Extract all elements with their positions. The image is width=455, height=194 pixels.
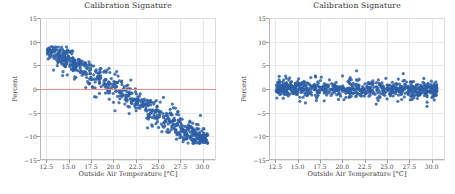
y-tick-label: 5 [262, 62, 266, 69]
x-tick-label: 15.0 [62, 163, 76, 170]
x-tick-label: 12.5 [268, 163, 282, 170]
x-tick-label: 27.5 [173, 163, 187, 170]
y-tick [266, 160, 269, 161]
y-axis-label-left: Percent [11, 76, 19, 102]
y-tick-label: 15 [258, 15, 266, 22]
y-tick-label: 0 [262, 86, 266, 93]
x-tick-label: 12.5 [39, 163, 53, 170]
x-tick-label: 27.5 [402, 163, 416, 170]
y-axis-label-right: Percent [240, 76, 248, 102]
x-tick-label: 30.0 [196, 163, 210, 170]
y-tick-label: 10 [29, 38, 37, 45]
x-tick-label: 17.5 [313, 163, 327, 170]
x-tick-label: 25.0 [380, 163, 394, 170]
y-tick-label: −10 [24, 133, 37, 140]
y-tick-label: −15 [253, 157, 266, 164]
chart-title-right: Calibration Signature [269, 1, 445, 10]
chart-title-left: Calibration Signature [40, 1, 216, 10]
y-tick-label: −15 [24, 157, 37, 164]
x-tick-label: 17.5 [84, 163, 98, 170]
y-tick-label: 15 [29, 15, 37, 22]
chart-panel-left: Calibration Signature 12.515.017.520.022… [0, 0, 227, 194]
x-tick-label: 22.5 [129, 163, 143, 170]
x-tick-label: 20.0 [335, 163, 349, 170]
gridline-horizontal [40, 160, 216, 161]
x-axis-label-left: Outside Air Temperature [°C] [79, 170, 178, 178]
x-tick-label: 30.0 [425, 163, 439, 170]
x-tick-label: 22.5 [358, 163, 372, 170]
y-tick-label: −10 [253, 133, 266, 140]
y-tick-label: −5 [257, 109, 266, 116]
y-tick-label: 0 [33, 86, 37, 93]
scatter-points [269, 18, 445, 160]
y-tick-label: −5 [28, 109, 37, 116]
plot-area-right: 12.515.017.520.022.525.027.530.0−15−10−5… [269, 18, 445, 160]
calibration-signature-figure: Calibration Signature 12.515.017.520.022… [0, 0, 455, 194]
chart-panel-right: Calibration Signature 12.515.017.520.022… [227, 0, 455, 194]
y-tick-label: 10 [258, 38, 266, 45]
gridline-horizontal [269, 160, 445, 161]
x-axis-label-right: Outside Air Temperature [°C] [308, 170, 407, 178]
zero-reference-line [40, 89, 216, 90]
x-tick-label: 25.0 [151, 163, 165, 170]
y-tick [37, 160, 40, 161]
x-tick-label: 15.0 [291, 163, 305, 170]
plot-area-left: 12.515.017.520.022.525.027.530.0−15−10−5… [40, 18, 216, 160]
x-tick-label: 20.0 [106, 163, 120, 170]
y-tick-label: 5 [33, 62, 37, 69]
